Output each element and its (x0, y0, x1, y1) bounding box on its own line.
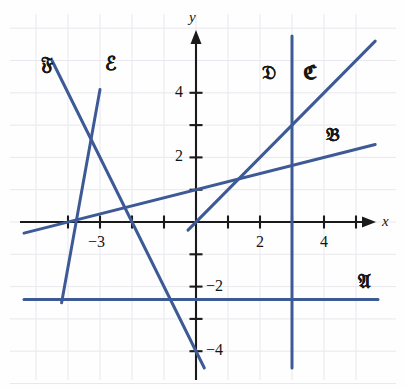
line-label-d: 𝔇 (262, 63, 276, 82)
x-tick-label-4: 4 (320, 234, 328, 250)
plotted-line-f (52, 61, 204, 369)
y-tick-label-neg4: −4 (206, 342, 223, 358)
y-tick-label-4: 4 (175, 84, 183, 100)
line-label-b: 𝔅 (326, 125, 340, 144)
y-tick-label-2: 2 (175, 148, 183, 164)
background-grid (10, 14, 396, 384)
figure-container: x y −3 2 4 4 2 −2 −4 𝔄 𝔅 ℭ 𝔇 ℰ 𝔉 (0, 0, 405, 388)
x-axis-label: x (382, 214, 389, 229)
plotted-line-c (188, 41, 375, 230)
line-label-f: 𝔉 (41, 54, 53, 73)
line-label-c: ℭ (303, 63, 316, 82)
y-axis-label: y (189, 10, 196, 25)
x-tick-label-2: 2 (256, 234, 264, 250)
y-tick-label-neg2: −2 (206, 278, 223, 294)
coordinate-plane-graph (0, 0, 405, 388)
x-tick-label-neg3: −3 (88, 234, 105, 250)
axes-group (20, 30, 376, 380)
line-label-e: ℰ (105, 54, 117, 73)
line-label-a: 𝔄 (358, 272, 371, 291)
